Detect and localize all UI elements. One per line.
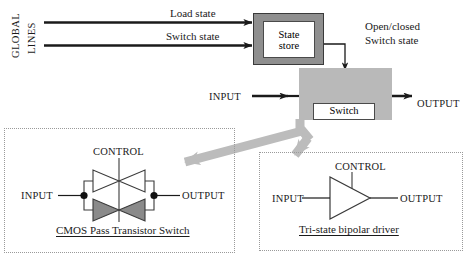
- switch-input-label: INPUT: [209, 91, 241, 102]
- tristate-output-label: OUTPUT: [400, 193, 443, 204]
- diagram-canvas: State store Switch GLOBAL LINES Load sta…: [0, 0, 467, 259]
- open-closed-annotation-line1: Open/closed: [365, 21, 420, 33]
- state-store-inner: State store: [263, 21, 315, 58]
- state-store-line1: State: [279, 29, 300, 40]
- tristate-panel-caption: Tri-state bipolar driver: [299, 224, 399, 236]
- global-lines-axis-label-top: GLOBAL: [10, 13, 21, 58]
- tristate-input-label: INPUT: [272, 193, 304, 204]
- load-state-label: Load state: [170, 8, 216, 20]
- cmos-output-label: OUTPUT: [182, 190, 225, 201]
- global-lines-axis-label-bottom: LINES: [26, 22, 37, 54]
- state-store-line2: store: [279, 40, 299, 51]
- cmos-input-label: INPUT: [21, 190, 53, 201]
- switch-output-label: OUTPUT: [417, 98, 460, 109]
- state-store-to-switch-connector: [322, 44, 345, 70]
- tristate-control-label: CONTROL: [335, 161, 386, 172]
- cmos-control-label: CONTROL: [93, 146, 144, 157]
- cmos-panel-caption: CMOS Pass Transistor Switch: [56, 225, 190, 237]
- state-store-block: State store: [253, 13, 324, 65]
- open-closed-annotation-line2: Switch state: [365, 35, 418, 47]
- switch-state-label: Switch state: [166, 31, 219, 43]
- switch-label: Switch: [313, 103, 375, 120]
